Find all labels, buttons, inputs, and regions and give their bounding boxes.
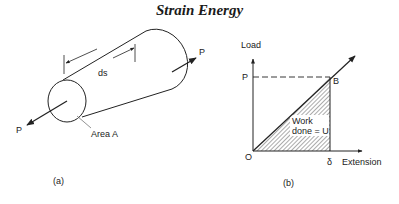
figure-b-caption: (b) — [283, 178, 294, 188]
area-leader-line — [77, 116, 91, 128]
figure-a-caption: (a) — [53, 176, 64, 186]
diagram-canvas: ds P P Area A (a) Load P B Work done = U… — [0, 0, 399, 204]
dimension-line-2b — [113, 48, 134, 58]
x-tick-label: δ — [327, 157, 332, 167]
y-axis-label: Load — [241, 40, 261, 50]
origin-label: O — [245, 152, 252, 162]
y-tick-label: P — [242, 72, 248, 82]
work-label-line2: done = U — [292, 126, 329, 136]
dimension-line-1 — [66, 49, 97, 63]
figure-a-bar: ds P P Area A (a) — [16, 29, 205, 186]
area-label: Area A — [91, 129, 118, 139]
load-label-left: P — [16, 125, 22, 135]
figure-b-graph: Load P B Work done = U O δ Extension (b) — [241, 40, 382, 188]
length-label: ds — [98, 68, 108, 78]
work-label-line1: Work — [292, 116, 313, 126]
cylinder-bottom-edge — [82, 89, 172, 117]
point-b-label: B — [333, 76, 339, 86]
load-label-right: P — [199, 47, 205, 57]
load-arrow-right-icon — [172, 58, 196, 72]
cylinder-right-end — [146, 29, 188, 89]
x-axis-label: Extension — [342, 157, 382, 167]
